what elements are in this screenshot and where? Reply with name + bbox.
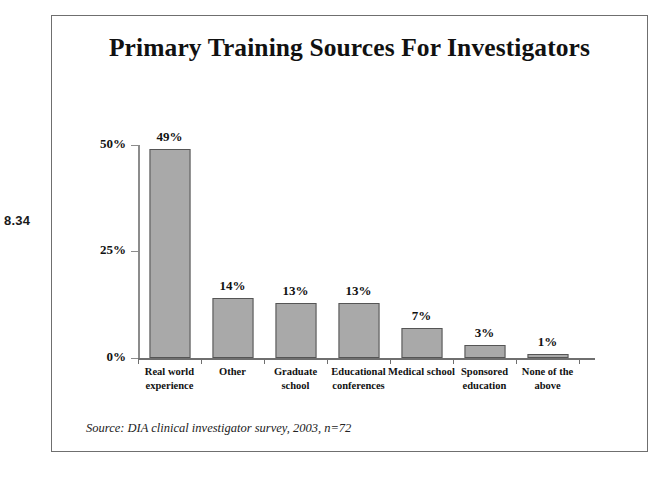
category-label: Real world experience	[134, 365, 206, 392]
x-tick-boundary	[264, 358, 265, 364]
bar-group: 3% Sponsored education	[453, 126, 516, 358]
bar-value-label: 7%	[412, 308, 432, 324]
bar-graduate-school[interactable]	[275, 303, 316, 358]
category-label: Other	[197, 365, 269, 379]
chart-title: Primary Training Sources For Investigato…	[52, 33, 647, 63]
figure-number: 8.34	[4, 213, 48, 228]
bar-value-label: 1%	[538, 334, 558, 350]
bar-value-label: 13%	[283, 283, 309, 299]
source-note: Source: DIA clinical investigator survey…	[86, 421, 351, 436]
bar-value-label: 49%	[157, 129, 183, 145]
y-tick-50: 50%	[131, 145, 138, 146]
bar-none-of-the-above[interactable]	[527, 354, 568, 358]
y-tick-label-0: 0%	[107, 349, 127, 365]
y-tick-label-25: 25%	[100, 242, 126, 258]
x-axis-line	[138, 358, 595, 360]
bar-other[interactable]	[212, 298, 253, 358]
y-tick-0: 0%	[131, 358, 138, 359]
bar-value-label: 14%	[220, 278, 246, 294]
bar-value-label: 13%	[346, 283, 372, 299]
x-tick-boundary	[453, 358, 454, 364]
category-label: None of the above	[512, 365, 584, 392]
bar-group: 13% Graduate school	[264, 126, 327, 358]
x-tick-boundary	[138, 358, 139, 364]
bar-group: 14% Other	[201, 126, 264, 358]
bar-real-world-experience[interactable]	[149, 149, 190, 358]
x-tick-boundary	[516, 358, 517, 364]
bar-group: 49% Real world experience	[138, 126, 201, 358]
category-label: Graduate school	[260, 365, 332, 392]
y-tick-25: 25%	[131, 251, 138, 252]
x-tick-boundary	[579, 358, 580, 364]
x-tick-boundary	[390, 358, 391, 364]
bar-sponsored-education[interactable]	[464, 345, 505, 358]
category-label: Medical school	[386, 365, 458, 379]
plot-area: 0% 25% 50% 49% Real world experience 14%…	[138, 126, 595, 358]
bar-medical-school[interactable]	[401, 328, 442, 358]
bar-group: 13% Educational conferences	[327, 126, 390, 358]
bar-group: 1% None of the above	[516, 126, 579, 358]
bar-value-label: 3%	[475, 325, 495, 341]
chart-frame: Primary Training Sources For Investigato…	[51, 15, 648, 452]
x-tick-boundary	[201, 358, 202, 364]
category-label: Educational conferences	[323, 365, 395, 392]
bar-group: 7% Medical school	[390, 126, 453, 358]
y-tick-label-50: 50%	[100, 136, 126, 152]
bar-educational-conferences[interactable]	[338, 303, 379, 358]
x-tick-boundary	[327, 358, 328, 364]
category-label: Sponsored education	[449, 365, 521, 392]
